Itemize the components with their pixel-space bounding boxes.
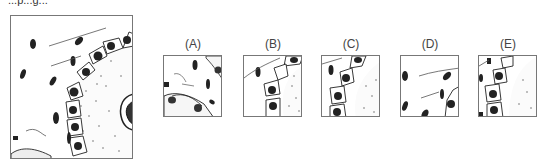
main-figure [10, 15, 133, 159]
option-e-image[interactable] [478, 55, 537, 117]
option-b-image[interactable] [243, 55, 302, 117]
option-b-label: (B) [243, 36, 303, 52]
option-a-image[interactable] [163, 55, 222, 117]
option-b[interactable]: (B) [243, 36, 303, 117]
option-c-image[interactable] [321, 55, 380, 117]
histology-drawing [11, 16, 133, 159]
option-c-label: (C) [321, 36, 381, 52]
option-e[interactable]: (E) [478, 36, 538, 117]
option-e-label: (E) [478, 36, 538, 52]
option-d[interactable]: (D) [400, 36, 460, 117]
option-a[interactable]: (A) [163, 36, 223, 117]
option-c[interactable]: (C) [321, 36, 381, 117]
option-d-label: (D) [400, 36, 460, 52]
option-d-image[interactable] [400, 55, 459, 117]
option-a-label: (A) [163, 36, 223, 52]
question-header-fragment: ...p...g... [8, 0, 48, 6]
